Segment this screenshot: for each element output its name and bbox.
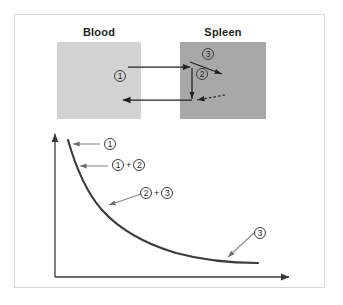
diagram-marker-1: 1 [114, 70, 126, 82]
plus-sign: + [124, 160, 133, 170]
diagram-marker-3: 3 [202, 48, 214, 60]
blood-compartment-label: Blood [57, 26, 141, 38]
circled-number-2: 2 [140, 187, 152, 199]
circled-number-3: 3 [161, 187, 173, 199]
diagram-marker-2: 2 [196, 68, 208, 80]
circled-number-1: 1 [104, 138, 116, 150]
chart-annotation-2-plus-3: 2 + 3 [140, 187, 173, 199]
figure-root: Blood Spleen 1 2 3 [0, 0, 343, 305]
chart-annotation-1: 1 [104, 138, 116, 150]
spleen-compartment-box [180, 42, 266, 119]
circled-number-3: 3 [254, 227, 266, 239]
plus-sign: + [152, 188, 161, 198]
spleen-compartment-label: Spleen [180, 26, 266, 38]
blood-compartment-box [57, 42, 141, 119]
circled-number-1: 1 [114, 70, 126, 82]
circled-number-1: 1 [112, 159, 124, 171]
circled-number-2: 2 [196, 68, 208, 80]
circled-number-2: 2 [133, 159, 145, 171]
chart-annotation-3: 3 [254, 227, 266, 239]
circled-number-3: 3 [202, 48, 214, 60]
chart-annotation-1-plus-2: 1 + 2 [112, 159, 145, 171]
